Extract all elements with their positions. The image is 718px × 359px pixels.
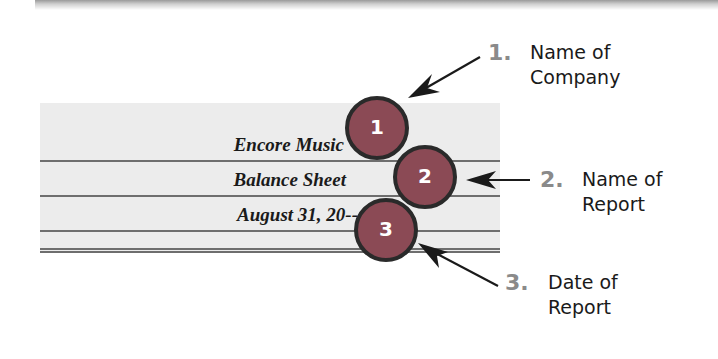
marker-number-2: 2 — [405, 164, 445, 188]
callout-number-2: 2. — [540, 167, 564, 192]
callout-number-3: 3. — [505, 270, 529, 295]
arrow-icon — [466, 171, 530, 189]
callout-line: Date of — [548, 270, 618, 295]
callout-label-3: Date of Report — [548, 270, 618, 320]
marker-number-3: 3 — [366, 217, 406, 241]
callout-line: Report — [548, 295, 618, 320]
marker-number-1: 1 — [357, 115, 397, 139]
callout-line: Name of — [582, 167, 662, 192]
arrow-icon — [418, 243, 498, 286]
callout-number-1: 1. — [488, 40, 512, 65]
callout-label-2: Name of Report — [582, 167, 662, 217]
callout-line: Name of — [530, 40, 620, 65]
callout-line: Company — [530, 65, 620, 90]
callout-label-1: Name of Company — [530, 40, 620, 90]
callout-line: Report — [582, 192, 662, 217]
arrow-icon — [408, 57, 480, 98]
